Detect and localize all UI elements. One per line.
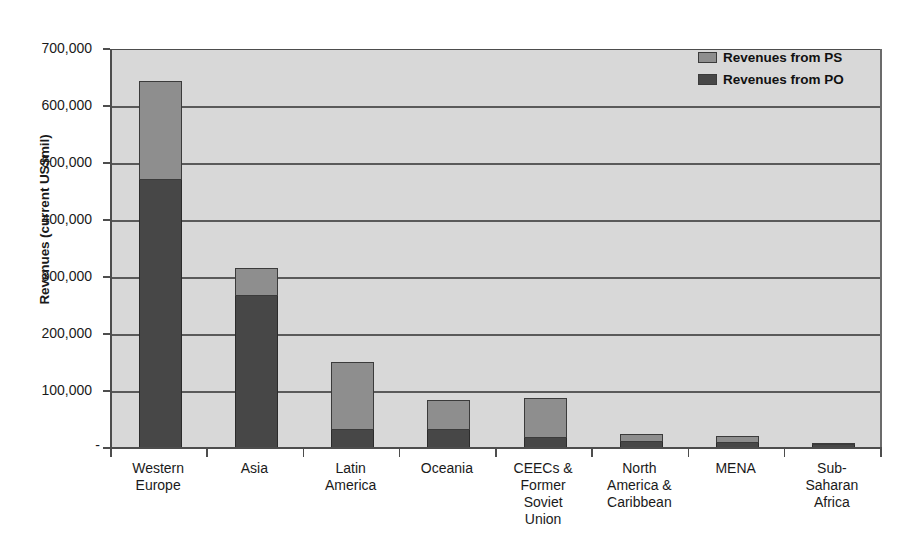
bar-segment-revenues-from-ps[interactable] [524, 398, 567, 437]
x-axis-label-line: Saharan [784, 477, 880, 494]
bar-segment-revenues-from-ps[interactable] [716, 436, 759, 443]
gridline [112, 163, 882, 165]
bar-segment-revenues-from-ps[interactable] [331, 362, 374, 430]
revenues-stacked-bar-chart: Revenues (current US$mil) -100,000200,00… [0, 0, 914, 551]
gridline [112, 334, 882, 336]
bar-segment-revenues-from-ps[interactable] [139, 81, 182, 180]
x-tick-mark [688, 449, 690, 457]
x-tick-mark [591, 449, 593, 457]
x-axis-label: CEECs &FormerSovietUnion [495, 460, 591, 528]
gridline [112, 391, 882, 393]
x-tick-mark [206, 449, 208, 457]
legend-swatch-icon [698, 74, 717, 85]
y-tick-label: - [86, 437, 100, 453]
x-axis-label-line: CEECs & [495, 460, 591, 477]
y-tick-mark [103, 48, 110, 50]
bar-stack[interactable] [235, 268, 278, 449]
x-axis-label-line: America & [591, 477, 687, 494]
x-axis-label-line: Africa [784, 494, 880, 511]
x-axis-label-line: Latin [303, 460, 399, 477]
y-tick-mark [103, 333, 110, 335]
bar-stack[interactable] [524, 398, 567, 449]
x-axis-label: Oceania [399, 460, 495, 477]
legend-item[interactable]: Revenues from PS [698, 48, 844, 66]
y-tick-label: 100,000 [0, 382, 92, 398]
x-axis-label: Sub-SaharanAfrica [784, 460, 880, 511]
x-tick-mark [495, 449, 497, 457]
x-axis-label-line: MENA [688, 460, 784, 477]
gridline [112, 277, 882, 279]
y-tick-label: 500,000 [0, 154, 92, 170]
x-axis-label: NorthAmerica &Caribbean [591, 460, 687, 511]
x-axis-label-line: Western [110, 460, 206, 477]
y-tick-label: 300,000 [0, 268, 92, 284]
bar-stack[interactable] [139, 81, 182, 449]
bar-segment-revenues-from-po[interactable] [139, 180, 182, 449]
y-tick-mark [103, 219, 110, 221]
x-tick-mark [303, 449, 305, 457]
plot-right-border [880, 49, 882, 449]
legend-label: Revenues from PO [723, 72, 844, 87]
chart-legend: Revenues from PSRevenues from PO [698, 48, 844, 88]
legend-label: Revenues from PS [723, 50, 842, 65]
y-tick-label: 700,000 [0, 40, 92, 56]
legend-item[interactable]: Revenues from PO [698, 70, 844, 88]
y-tick-mark [103, 162, 110, 164]
plot-area [110, 49, 882, 449]
y-tick-label: 200,000 [0, 325, 92, 341]
x-tick-mark [784, 449, 786, 457]
x-axis-label-line: Former [495, 477, 591, 494]
x-axis-label: WesternEurope [110, 460, 206, 494]
x-axis-label-line: Asia [206, 460, 302, 477]
y-tick-label: 600,000 [0, 97, 92, 113]
x-axis-label: LatinAmerica [303, 460, 399, 494]
x-axis-label-line: Union [495, 511, 591, 528]
y-tick-mark [103, 447, 110, 449]
y-tick-label: 400,000 [0, 211, 92, 227]
x-tick-mark [399, 449, 401, 457]
gridline [112, 220, 882, 222]
x-tick-mark [110, 449, 112, 457]
gridline [112, 106, 882, 108]
x-axis-label-line: Europe [110, 477, 206, 494]
x-axis-label-line: Caribbean [591, 494, 687, 511]
x-axis-label-line: Oceania [399, 460, 495, 477]
x-axis-label-line: North [591, 460, 687, 477]
y-tick-mark [103, 105, 110, 107]
x-axis-label: MENA [688, 460, 784, 477]
y-tick-mark [103, 390, 110, 392]
x-axis-label-line: Sub- [784, 460, 880, 477]
bar-stack[interactable] [331, 362, 374, 449]
x-axis-label: Asia [206, 460, 302, 477]
x-tick-mark [880, 449, 882, 457]
bar-segment-revenues-from-ps[interactable] [427, 400, 470, 430]
legend-swatch-icon [698, 52, 717, 63]
bar-segment-revenues-from-ps[interactable] [235, 268, 278, 297]
y-tick-mark [103, 276, 110, 278]
x-axis-label-line: America [303, 477, 399, 494]
bar-segment-revenues-from-po[interactable] [235, 296, 278, 449]
bar-stack[interactable] [427, 400, 470, 449]
bar-segment-revenues-from-ps[interactable] [620, 434, 663, 442]
x-axis-label-line: Soviet [495, 494, 591, 511]
